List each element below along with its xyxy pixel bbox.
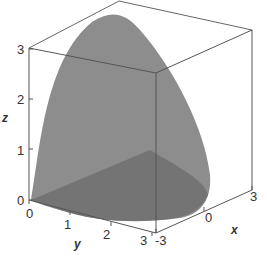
y-tick-3: 3	[140, 233, 147, 248]
y-tick-0: 0	[26, 206, 33, 221]
z-tick-1: 1	[17, 143, 24, 158]
x-axis-label: x	[230, 223, 239, 237]
plot-3d: 0 1 2 3 z 0 1 2 3 y -3 0 3 x	[0, 0, 267, 261]
y-axis-label: y	[73, 237, 82, 251]
y-tick-1: 1	[64, 217, 71, 232]
z-axis-label: z	[1, 111, 8, 125]
z-tick-2: 2	[17, 92, 24, 107]
z-axis-ticks	[29, 49, 33, 200]
x-tick-neg3: -3	[155, 233, 167, 248]
surface	[31, 14, 210, 221]
x-tick-0: 0	[205, 210, 212, 225]
z-tick-3: 3	[17, 42, 24, 57]
x-tick-3: 3	[250, 189, 257, 204]
y-tick-2: 2	[103, 227, 110, 242]
z-tick-0: 0	[17, 193, 24, 208]
